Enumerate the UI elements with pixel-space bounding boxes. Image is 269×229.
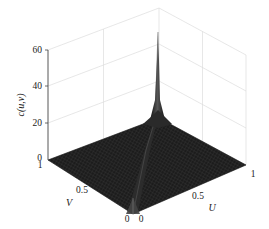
v-axis-label: V bbox=[66, 197, 74, 208]
z-axis-label: c(u,v) bbox=[15, 93, 27, 117]
surface-plot: 60 40 20 0 c(u,v) 1 0.5 0 V 0 0.5 1 U bbox=[0, 0, 269, 229]
z-tick-40: 40 bbox=[33, 81, 43, 91]
v-tick-1: 1 bbox=[38, 160, 43, 170]
z-tick-60: 60 bbox=[33, 45, 43, 55]
u-tick-0: 0 bbox=[139, 214, 144, 224]
u-axis-label: U bbox=[208, 202, 216, 213]
u-tick-0.5: 0.5 bbox=[192, 191, 204, 201]
u-tick-1: 1 bbox=[251, 169, 256, 179]
z-axis: 60 40 20 0 c(u,v) bbox=[15, 45, 48, 163]
z-tick-20: 20 bbox=[33, 118, 43, 128]
v-tick-0: 0 bbox=[125, 214, 130, 224]
v-tick-0.5: 0.5 bbox=[76, 185, 88, 195]
